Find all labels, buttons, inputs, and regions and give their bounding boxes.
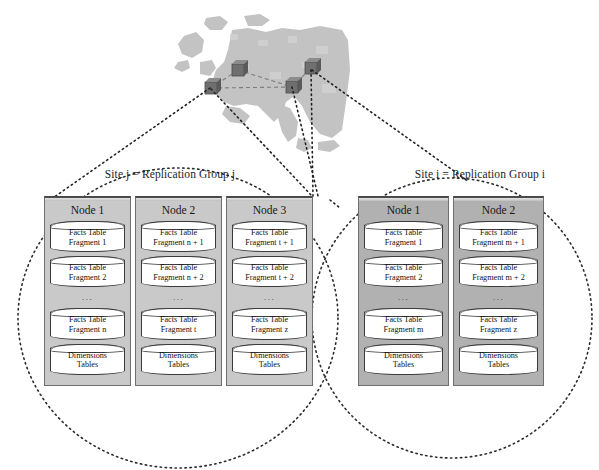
cylinder-label-line1: Facts Table xyxy=(69,315,106,324)
vertical-ellipsis: ... xyxy=(364,293,443,303)
database-cylinder: DimensionsTables xyxy=(141,344,216,375)
cylinder-label: Facts TableFragment n + 2 xyxy=(144,263,213,282)
vertical-ellipsis: ... xyxy=(459,293,538,303)
database-cylinder: Facts TableFragment m + 1 xyxy=(459,221,538,252)
cylinder-label-line2: Fragment t xyxy=(144,325,213,335)
cylinder-label-line2: Tables xyxy=(462,360,535,370)
database-cylinder: Facts TableFragment n + 2 xyxy=(141,256,216,287)
node-box[interactable]: Node 2Facts TableFragment n + 1Facts Tab… xyxy=(135,196,222,386)
database-cylinder: Facts TableFragment n + 1 xyxy=(141,221,216,252)
cylinder-label-line2: Tables xyxy=(144,360,213,370)
database-cylinder: Facts TableFragment 1 xyxy=(50,221,125,252)
diagram-canvas: Site j = Replication Group j Node 1Facts… xyxy=(0,0,599,470)
database-cylinder: Facts TableFragment n xyxy=(50,308,125,339)
cylinder-label-line1: Dimensions xyxy=(159,351,198,360)
node-title: Node 3 xyxy=(253,204,287,217)
database-cylinder: Facts TableFragment m + 2 xyxy=(459,256,538,287)
cylinder-label: DimensionsTables xyxy=(53,351,122,370)
cylinder-label-line1: Facts Table xyxy=(385,228,422,237)
cylinder-label-line2: Fragment 1 xyxy=(367,238,440,248)
database-cylinder: Facts TableFragment 2 xyxy=(364,256,443,287)
cylinder-label-line1: Dimensions xyxy=(250,351,289,360)
cylinder-label: Facts TableFragment n xyxy=(53,315,122,334)
cylinder-label-line1: Facts Table xyxy=(251,263,288,272)
site-i-node-panel: Node 1Facts TableFragment 1Facts TableFr… xyxy=(358,196,546,386)
cylinder-label: Facts TableFragment 1 xyxy=(367,228,440,247)
cylinder-label-line2: Fragment 1 xyxy=(53,238,122,248)
cylinder-label-line2: Fragment m + 1 xyxy=(462,238,535,248)
cylinder-label-line2: Tables xyxy=(235,360,304,370)
database-cylinder: Facts TableFragment z xyxy=(232,308,307,339)
cylinder-label-line1: Facts Table xyxy=(480,315,517,324)
site-j-title: Site j = Replication Group j xyxy=(60,168,280,180)
node-title: Node 1 xyxy=(387,204,421,217)
cylinder-label-line2: Fragment n + 1 xyxy=(144,238,213,248)
cylinder-label-line1: Facts Table xyxy=(480,263,517,272)
cylinder-label-line2: Tables xyxy=(53,360,122,370)
cylinder-label-line2: Fragment 2 xyxy=(367,273,440,283)
cylinder-label-line1: Facts Table xyxy=(385,263,422,272)
database-cylinder: DimensionsTables xyxy=(232,344,307,375)
cylinder-label-line2: Fragment m + 2 xyxy=(462,273,535,283)
node-box[interactable]: Node 3Facts TableFragment t + 1Facts Tab… xyxy=(226,196,313,386)
node-box[interactable]: Node 1Facts TableFragment 1Facts TableFr… xyxy=(358,196,449,386)
cylinder-label-line1: Dimensions xyxy=(68,351,107,360)
cylinder-label: Facts TableFragment m + 2 xyxy=(462,263,535,282)
cylinder-label: Facts TableFragment z xyxy=(462,315,535,334)
database-cylinder: DimensionsTables xyxy=(459,344,538,375)
node-title: Node 2 xyxy=(162,204,196,217)
database-cylinder: Facts TableFragment t xyxy=(141,308,216,339)
site-group-i: Site i = Replication Group i Node 1Facts… xyxy=(330,0,599,470)
cylinder-label-line2: Fragment t + 1 xyxy=(235,238,304,248)
cylinder-label-line1: Facts Table xyxy=(160,228,197,237)
vertical-ellipsis: ... xyxy=(50,293,125,303)
node-box[interactable]: Node 1Facts TableFragment 1Facts TableFr… xyxy=(44,196,131,386)
cylinder-label-line1: Facts Table xyxy=(160,263,197,272)
cylinder-label: Facts TableFragment z xyxy=(235,315,304,334)
cylinder-label: Facts TableFragment t xyxy=(144,315,213,334)
cylinder-label-line2: Fragment z xyxy=(462,325,535,335)
database-cylinder: DimensionsTables xyxy=(364,344,443,375)
cylinder-label: DimensionsTables xyxy=(144,351,213,370)
cylinder-label-line1: Facts Table xyxy=(480,228,517,237)
database-cylinder: Facts TableFragment z xyxy=(459,308,538,339)
cylinder-label-line2: Tables xyxy=(367,360,440,370)
cylinder-label: Facts TableFragment 2 xyxy=(367,263,440,282)
cylinder-label-line1: Dimensions xyxy=(479,351,518,360)
cylinder-label: Facts TableFragment t + 2 xyxy=(235,263,304,282)
database-cylinder: DimensionsTables xyxy=(50,344,125,375)
cylinder-label-line1: Dimensions xyxy=(384,351,423,360)
cylinder-label: Facts TableFragment 1 xyxy=(53,228,122,247)
cylinder-label-line1: Facts Table xyxy=(160,315,197,324)
cylinder-label-line2: Fragment m xyxy=(367,325,440,335)
cylinder-label-line1: Facts Table xyxy=(251,315,288,324)
cylinder-label: Facts TableFragment m xyxy=(367,315,440,334)
database-cylinder: Facts TableFragment m xyxy=(364,308,443,339)
cylinder-label: Facts TableFragment 2 xyxy=(53,263,122,282)
database-cylinder: Facts TableFragment 2 xyxy=(50,256,125,287)
site-group-j: Site j = Replication Group j Node 1Facts… xyxy=(0,0,340,470)
database-cylinder: Facts TableFragment t + 1 xyxy=(232,221,307,252)
cylinder-label-line2: Fragment n xyxy=(53,325,122,335)
cylinder-label-line2: Fragment n + 2 xyxy=(144,273,213,283)
site-j-node-panel: Node 1Facts TableFragment 1Facts TableFr… xyxy=(44,196,316,386)
node-box[interactable]: Node 2Facts TableFragment m + 1Facts Tab… xyxy=(453,196,544,386)
database-cylinder: Facts TableFragment t + 2 xyxy=(232,256,307,287)
cylinder-label-line1: Facts Table xyxy=(251,228,288,237)
cylinder-label-line1: Facts Table xyxy=(69,263,106,272)
cylinder-label-line1: Facts Table xyxy=(385,315,422,324)
vertical-ellipsis: ... xyxy=(141,293,216,303)
node-title: Node 2 xyxy=(482,204,516,217)
cylinder-label: DimensionsTables xyxy=(235,351,304,370)
cylinder-label-line2: Fragment z xyxy=(235,325,304,335)
vertical-ellipsis: ... xyxy=(232,293,307,303)
cylinder-label: DimensionsTables xyxy=(462,351,535,370)
cylinder-label: Facts TableFragment m + 1 xyxy=(462,228,535,247)
site-i-title: Site i = Replication Group i xyxy=(370,168,590,180)
cylinder-label-line2: Fragment 2 xyxy=(53,273,122,283)
cylinder-label-line2: Fragment t + 2 xyxy=(235,273,304,283)
database-cylinder: Facts TableFragment 1 xyxy=(364,221,443,252)
cylinder-label: Facts TableFragment n + 1 xyxy=(144,228,213,247)
cylinder-label-line1: Facts Table xyxy=(69,228,106,237)
cylinder-label: DimensionsTables xyxy=(367,351,440,370)
